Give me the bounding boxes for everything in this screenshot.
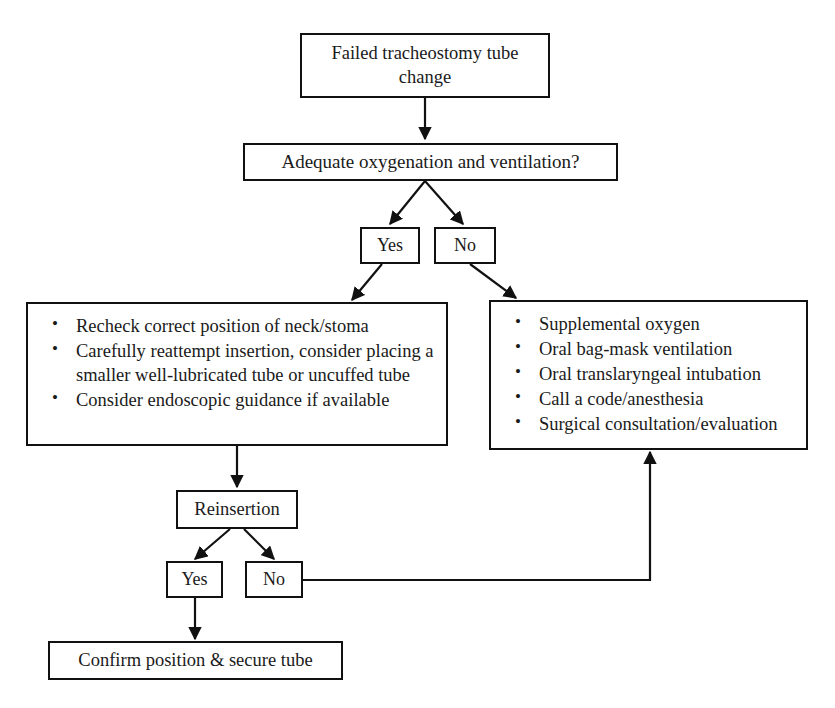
list-item: Surgical consultation/evaluation [535,412,798,436]
node-yes-bottom[interactable]: Yes [166,561,223,598]
right-actions-list: Supplemental oxygen Oral bag-mask ventil… [505,312,798,436]
node-yes-top-label: Yes [371,234,409,257]
list-item: Oral bag-mask ventilation [535,337,798,361]
edge-reinsertion-to-no [244,529,274,559]
node-reinsertion[interactable]: Reinsertion [176,490,298,529]
node-reinsertion-label: Reinsertion [188,498,285,522]
left-actions-list: Recheck correct position of neck/stoma C… [42,314,438,412]
edge-no-to-right-actions-return [303,452,650,580]
node-start[interactable]: Failed tracheostomy tube change [300,33,550,98]
list-item: Call a code/anesthesia [535,387,798,411]
node-confirm[interactable]: Confirm position & secure tube [48,641,343,680]
list-item: Consider endoscopic guidance if availabl… [72,388,438,412]
node-decision-oxygenation-label: Adequate oxygenation and ventilation? [275,150,585,174]
list-item: Oral translaryngeal intubation [535,362,798,386]
node-no-bottom-label: No [257,568,291,591]
flowchart-canvas: Failed tracheostomy tube change Adequate… [0,0,835,708]
edge-decision-to-no [425,181,463,224]
list-item: Carefully reattempt insertion, consider … [72,339,438,387]
list-item: Recheck correct position of neck/stoma [72,314,438,338]
node-right-actions[interactable]: Supplemental oxygen Oral bag-mask ventil… [489,300,808,450]
node-left-actions[interactable]: Recheck correct position of neck/stoma C… [26,302,448,446]
node-no-bottom[interactable]: No [245,561,303,598]
edge-decision-to-yes [390,181,425,224]
edge-no-to-right-actions [470,264,516,298]
node-start-label: Failed tracheostomy tube change [325,42,524,89]
edge-reinsertion-to-yes [195,529,230,559]
node-confirm-label: Confirm position & secure tube [72,649,318,673]
node-no-top[interactable]: No [434,227,496,264]
list-item: Supplemental oxygen [535,312,798,336]
node-yes-bottom-label: Yes [175,568,213,591]
node-decision-oxygenation[interactable]: Adequate oxygenation and ventilation? [243,143,618,181]
node-yes-top[interactable]: Yes [360,227,420,264]
edge-yes-to-left-actions [352,264,382,300]
node-no-top-label: No [448,234,482,257]
